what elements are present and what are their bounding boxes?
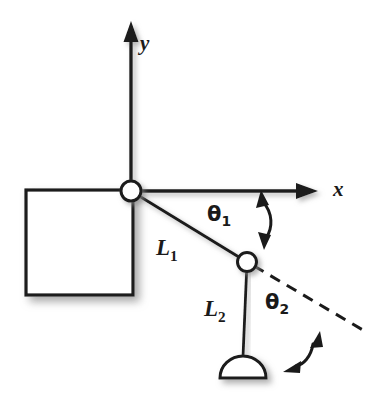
kinematic-diagram-figure: y x L1 L2 θ1 θ2 xyxy=(0,0,375,397)
link-2-label-text: L xyxy=(204,296,218,321)
theta-2-label-subscript: 2 xyxy=(279,301,289,317)
diagram-canvas xyxy=(0,0,375,397)
link-2-segment xyxy=(243,262,247,357)
link-1-label-subscript: 1 xyxy=(170,247,178,264)
theta-2-label: θ2 xyxy=(265,292,289,317)
y-axis xyxy=(124,21,139,191)
x-axis-label: x xyxy=(333,179,344,200)
end-effector-gripper xyxy=(220,356,266,378)
theta-2-label-text: θ xyxy=(265,290,279,314)
shoulder-joint xyxy=(121,181,141,201)
link-2-label: L2 xyxy=(204,297,226,324)
theta-1-angle-arc xyxy=(256,190,271,250)
base-block xyxy=(26,190,133,295)
elbow-joint xyxy=(238,253,257,272)
link-2-label-subscript: 2 xyxy=(218,308,226,325)
x-axis xyxy=(131,183,318,199)
theta-1-label: θ1 xyxy=(207,204,231,229)
link-1-label-text: L xyxy=(156,235,170,260)
theta-1-label-text: θ xyxy=(207,202,221,226)
y-axis-label: y xyxy=(140,33,149,54)
theta-1-label-subscript: 1 xyxy=(221,213,231,229)
link-1-label: L1 xyxy=(156,236,178,263)
theta-2-angle-arc xyxy=(283,331,323,373)
